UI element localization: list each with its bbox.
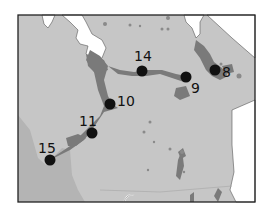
map-outside-east <box>230 100 255 202</box>
marker-label: 8 <box>222 64 231 80</box>
marker-dot[interactable] <box>105 99 116 110</box>
map: 14 9 8 10 11 15 <box>0 0 272 215</box>
marker-label: 10 <box>117 93 135 109</box>
marker-dot[interactable] <box>181 72 192 83</box>
marker-dot[interactable] <box>45 155 56 166</box>
marker-label: 14 <box>134 48 152 64</box>
marker-dot[interactable] <box>137 66 148 77</box>
marker-dot[interactable] <box>210 65 221 76</box>
marker-dot[interactable] <box>87 128 98 139</box>
marker-label: 9 <box>191 80 200 96</box>
marker-label: 11 <box>79 113 97 129</box>
marker-label: 15 <box>38 140 56 156</box>
